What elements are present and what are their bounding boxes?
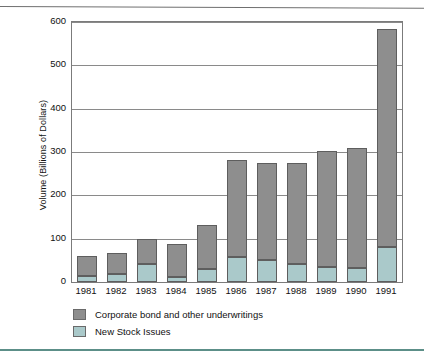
bar-1989 <box>317 151 337 282</box>
plot-area <box>71 21 403 283</box>
x-tick-label-1983: 1983 <box>131 285 161 296</box>
bar-segment-stock-1989 <box>317 267 337 282</box>
x-tick-label-1986: 1986 <box>221 285 251 296</box>
top-divider-rule <box>0 6 424 9</box>
bar-segment-bond-1985 <box>197 225 217 269</box>
bar-segment-stock-1985 <box>197 269 217 282</box>
bar-segment-bond-1983 <box>137 239 157 264</box>
bar-segment-bond-1989 <box>317 151 337 267</box>
bar-segment-bond-1988 <box>287 163 307 264</box>
x-axis-tick-labels: 1981198219831984198519861987198819891990… <box>71 285 401 301</box>
bar-segment-stock-1986 <box>227 257 247 282</box>
x-tick-label-1989: 1989 <box>311 285 341 296</box>
y-tick-label: 400 <box>36 102 66 113</box>
y-tick-label: 200 <box>36 188 66 199</box>
bar-segment-bond-1990 <box>347 148 367 268</box>
bottom-divider-rule <box>0 349 424 351</box>
bar-1985 <box>197 225 217 282</box>
bar-1990 <box>347 148 367 282</box>
bar-series-group <box>72 22 402 282</box>
bar-segment-bond-1991 <box>377 29 397 247</box>
bar-segment-stock-1984 <box>167 277 187 282</box>
bar-1988 <box>287 163 307 282</box>
bar-segment-stock-1990 <box>347 268 367 282</box>
bar-1981 <box>77 256 97 282</box>
chart-legend: Corporate bond and other underwritingsNe… <box>73 307 373 341</box>
bar-segment-bond-1982 <box>107 253 127 274</box>
bar-segment-bond-1984 <box>167 244 187 277</box>
bar-segment-stock-1991 <box>377 247 397 282</box>
legend-item-1: Corporate bond and other underwritings <box>73 307 373 322</box>
x-tick-label-1990: 1990 <box>341 285 371 296</box>
y-tick-label: 0 <box>36 275 66 286</box>
bar-segment-stock-1982 <box>107 274 127 282</box>
bar-1983 <box>137 239 157 282</box>
chart-figure: Volume (Billions of Dollars) 01002003004… <box>0 0 424 358</box>
x-tick-label-1991: 1991 <box>371 285 401 296</box>
legend-label-2: New Stock Issues <box>95 326 171 337</box>
bar-1984 <box>167 244 187 282</box>
legend-swatch-2 <box>73 326 86 337</box>
y-tick-label: 500 <box>36 58 66 69</box>
bar-1991 <box>377 29 397 282</box>
bar-segment-stock-1983 <box>137 264 157 282</box>
y-tick-label: 300 <box>36 145 66 156</box>
bar-segment-bond-1981 <box>77 256 97 276</box>
bar-1982 <box>107 253 127 282</box>
y-tick-label: 600 <box>36 15 66 26</box>
x-tick-label-1988: 1988 <box>281 285 311 296</box>
legend-swatch-1 <box>73 309 86 320</box>
bar-segment-stock-1981 <box>77 276 97 282</box>
bar-segment-stock-1988 <box>287 264 307 282</box>
x-tick-label-1984: 1984 <box>161 285 191 296</box>
legend-label-1: Corporate bond and other underwritings <box>95 309 263 320</box>
bar-1986 <box>227 160 247 282</box>
bar-segment-bond-1987 <box>257 163 277 261</box>
bar-segment-stock-1987 <box>257 260 277 282</box>
x-tick-label-1981: 1981 <box>71 285 101 296</box>
bar-1987 <box>257 163 277 282</box>
x-tick-label-1987: 1987 <box>251 285 281 296</box>
y-tick-label: 100 <box>36 232 66 243</box>
x-tick-label-1985: 1985 <box>191 285 221 296</box>
bar-segment-bond-1986 <box>227 160 247 257</box>
x-tick-label-1982: 1982 <box>101 285 131 296</box>
legend-item-2: New Stock Issues <box>73 324 373 339</box>
